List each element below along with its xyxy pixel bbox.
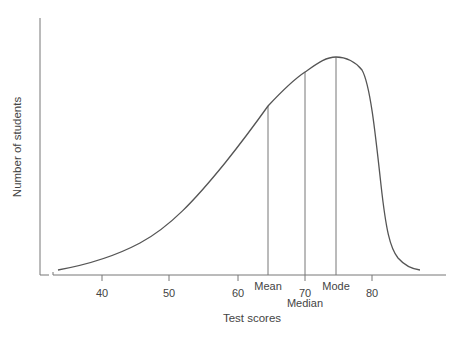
distribution-curve (58, 57, 420, 270)
x-tick-label-40: 40 (96, 287, 108, 299)
x-axis-title: Test scores (223, 312, 281, 324)
y-axis-title: Number of students (11, 97, 23, 198)
x-tick-label-50: 50 (163, 287, 175, 299)
x-tick-label-80: 80 (366, 287, 378, 299)
x-tick-label-60: 60 (232, 287, 244, 299)
mode-label: Mode (322, 280, 350, 292)
median-label: Median (287, 297, 323, 309)
mean-label: Mean (254, 280, 282, 292)
chart-canvas: 40 50 60 70 80 Mean Median Mode Test sco… (0, 0, 456, 338)
